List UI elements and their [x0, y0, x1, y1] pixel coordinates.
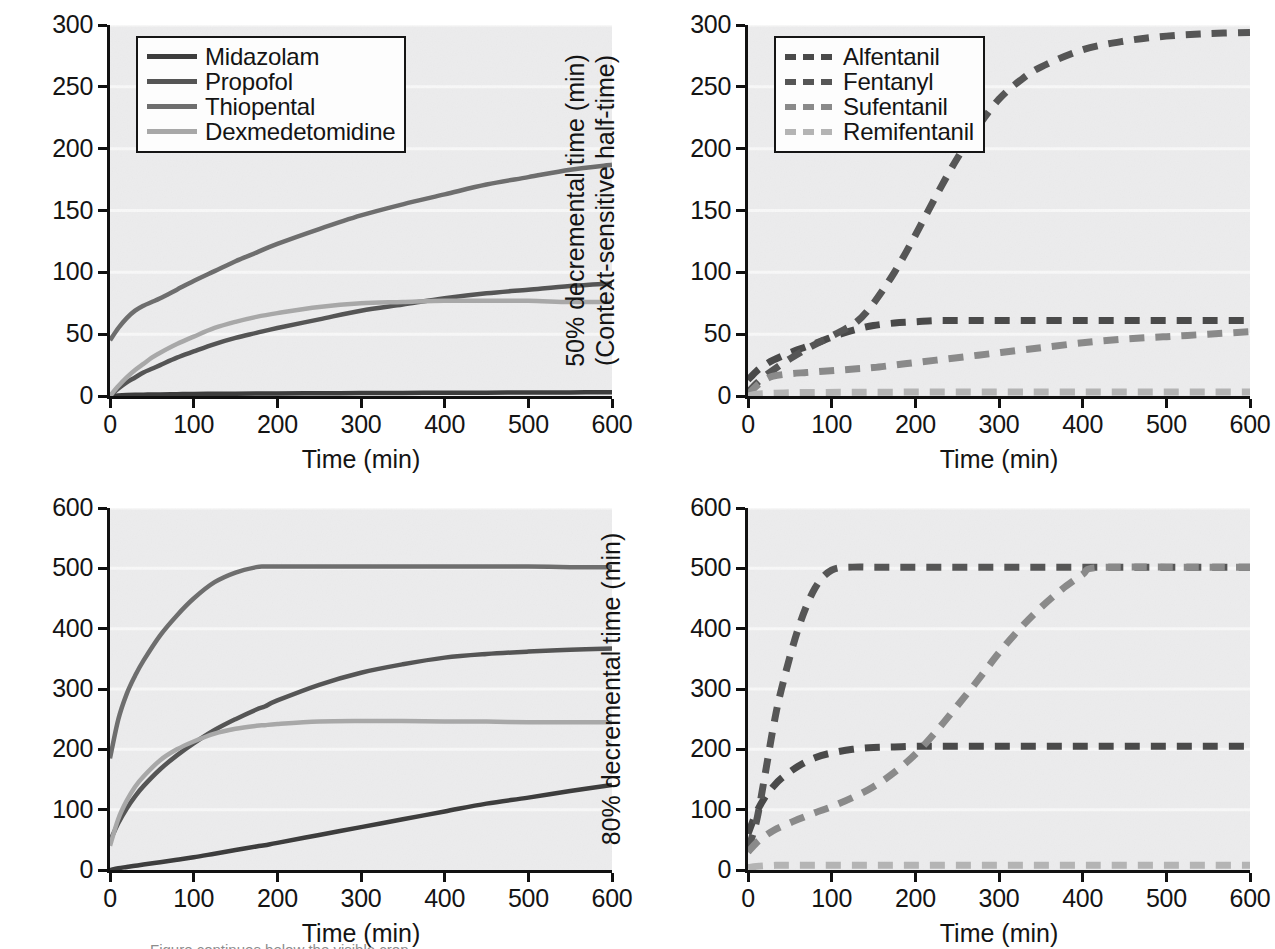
y-tick-label: 100: [618, 797, 731, 822]
x-tick: [1081, 873, 1084, 882]
y-axis-title-line1: 80% decremental time (min): [597, 533, 625, 846]
plot-area-bottom-right: [748, 508, 1250, 870]
y-tick: [736, 567, 745, 570]
y-tick: [736, 869, 745, 872]
y-tick: [736, 808, 745, 811]
y-tick: [736, 627, 745, 630]
x-tick: [830, 873, 833, 882]
y-tick-label: 300: [618, 676, 731, 701]
x-tick: [1249, 873, 1252, 882]
x-tick-label: 600: [1200, 886, 1275, 911]
y-tick: [736, 507, 745, 510]
paper-texture: [748, 508, 1250, 870]
y-tick-label: 400: [618, 616, 731, 641]
y-tick-label: 200: [618, 736, 731, 761]
x-tick: [1165, 873, 1168, 882]
clipped-caption: Figure continues below the visible crop: [150, 941, 1100, 949]
x-tick: [914, 873, 917, 882]
y-tick-label: 500: [618, 555, 731, 580]
x-tick: [998, 873, 1001, 882]
x-tick: [747, 873, 750, 882]
y-tick-label: 600: [618, 495, 731, 520]
y-tick: [736, 748, 745, 751]
y-axis-line: [745, 508, 748, 873]
y-tick: [736, 688, 745, 691]
y-tick-label: 0: [618, 857, 731, 882]
y-axis-title: 80% decremental time (min): [596, 508, 626, 870]
